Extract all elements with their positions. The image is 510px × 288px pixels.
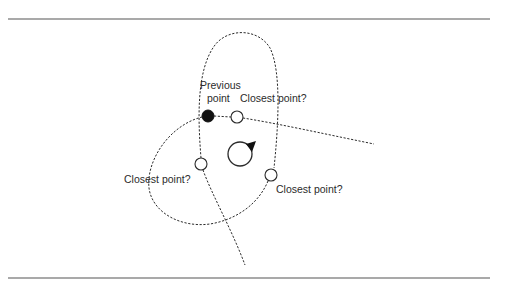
candidate-point-right [265, 169, 277, 181]
previous-point-label-line1: Previous [200, 79, 241, 91]
candidate-point-top [231, 111, 243, 123]
previous-point-marker [202, 110, 214, 122]
closest-point-label-top: Closest point? [240, 92, 307, 104]
down-path [203, 170, 245, 265]
closest-point-label-left: Closest point? [124, 173, 191, 185]
candidate-point-left [195, 158, 207, 170]
path-matching-diagram: Previous point Closest point? Closest po… [0, 0, 510, 288]
loop-path [149, 33, 278, 225]
robot-icon [228, 141, 256, 166]
closest-point-label-right: Closest point? [276, 183, 343, 195]
right-tail-path [243, 118, 374, 144]
connector-path [214, 116, 231, 117]
previous-point-label-line2: point [207, 92, 230, 104]
